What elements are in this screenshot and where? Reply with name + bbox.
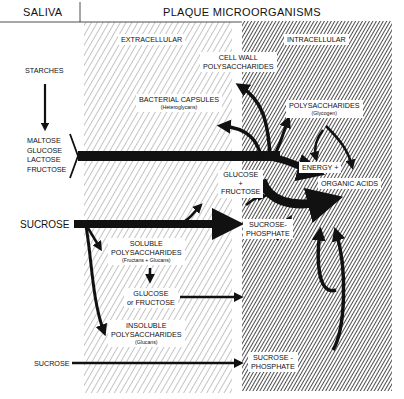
soluble-line2: POLYSACCHARIDES <box>111 248 182 257</box>
soluble-line1: SOLUBLE <box>111 239 182 248</box>
sugar-glucose: GLUCOSE <box>27 146 66 156</box>
extracellular-label: EXTRACELLULAR <box>118 34 185 45</box>
polysaccharides-glycogen-node: POLYSACCHARIDES (Glycogen) <box>286 100 363 118</box>
intracellular-label: INTRACELLULAR <box>284 34 349 45</box>
starches-label: STARCHES <box>25 66 64 75</box>
insoluble-sub: (Glucans) <box>111 339 182 346</box>
sucrose-lower-label: SUCROSE <box>34 359 70 368</box>
poly-sub: (Glycogen) <box>289 110 360 117</box>
sucrose-phosphate-node-2: SUCROSE - PHOSPHATE <box>248 352 298 372</box>
sugar-lactose: LACTOSE <box>27 155 66 165</box>
sp1-line2: PHOSPHATE <box>246 229 290 238</box>
glucose-fructose-node: GLUCOSE + FRUCTOSE <box>218 170 263 198</box>
organic-acids-node: ORGANIC ACIDS <box>318 178 381 189</box>
plaque-header: PLAQUE MICROORGANISMS <box>163 6 321 18</box>
energy-node: ENERGY + <box>299 162 341 173</box>
sugar-maltose: MALTOSE <box>27 136 66 146</box>
gf-line3: FRUCTOSE <box>221 188 260 197</box>
bacterial-capsules-sub: (Heteroglycans) <box>139 104 219 111</box>
insoluble-line2: POLYSACCHARIDES <box>111 330 182 339</box>
insoluble-polysaccharides-node: INSOLUBLE POLYSACCHARIDES (Glucans) <box>108 320 185 347</box>
bacterial-capsules-node: BACTERIAL CAPSULES (Heteroglycans) <box>136 94 222 112</box>
sugars-list: MALTOSE GLUCOSE LACTOSE FRUCTOSE <box>27 136 66 174</box>
cell-wall-line2: POLYSACCHARIDES <box>203 62 274 71</box>
gof-line2: or FRUCTOSE <box>127 298 175 307</box>
soluble-sub: (Fructans + Glucans) <box>111 257 182 264</box>
glucose-or-fructose-node: GLUCOSE or FRUCTOSE <box>124 288 178 308</box>
poly-title: POLYSACCHARIDES <box>289 101 360 110</box>
sugar-fructose: FRUCTOSE <box>27 165 66 175</box>
sp1-line1: SUCROSE- <box>246 220 290 229</box>
sucrose-label: SUCROSE <box>20 219 69 230</box>
cell-wall-line1: CELL WALL <box>203 53 274 62</box>
insoluble-line1: INSOLUBLE <box>111 321 182 330</box>
sp2-line1: SUCROSE - <box>251 353 295 362</box>
saliva-header: SALIVA <box>23 6 63 18</box>
sugars-bracket <box>70 134 78 178</box>
sucrose-phosphate-node-1: SUCROSE- PHOSPHATE <box>243 219 293 239</box>
cell-wall-node: CELL WALL POLYSACCHARIDES <box>200 52 277 72</box>
soluble-polysaccharides-node: SOLUBLE POLYSACCHARIDES (Fructans + Gluc… <box>108 238 185 265</box>
sp2-line2: PHOSPHATE <box>251 362 295 371</box>
bacterial-capsules-title: BACTERIAL CAPSULES <box>139 95 219 104</box>
gof-line1: GLUCOSE <box>127 289 175 298</box>
